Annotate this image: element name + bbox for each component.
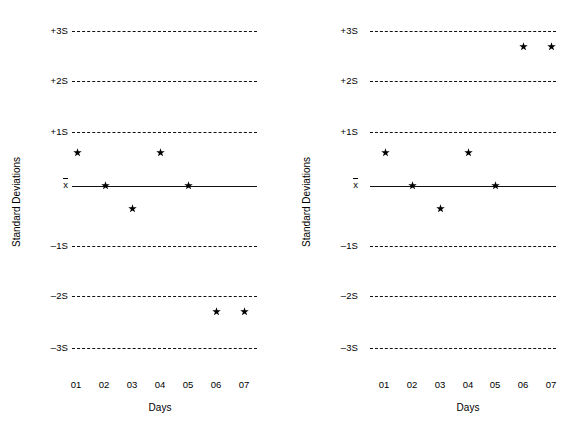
data-point-left-03[interactable] xyxy=(128,204,137,213)
x-tick-label-left-05: 05 xyxy=(183,380,194,390)
y-tick-label-plus2s-right: +2S xyxy=(312,76,358,86)
x-axis-title-left: Days xyxy=(149,402,172,413)
y-tick-label-minus1s-left: –1S xyxy=(22,241,68,251)
gridline-minus1s-left xyxy=(72,246,257,247)
y-tick-label-plus1s-right: +1S xyxy=(312,127,358,137)
x-bar-glyph-left: x xyxy=(63,180,68,190)
y-axis-title-left: Standard Deviations xyxy=(11,157,22,247)
x-tick-label-right-05: 05 xyxy=(490,380,501,390)
y-tick-label-minus1s-right: –1S xyxy=(312,241,358,251)
gridline-minus3s-left xyxy=(72,348,257,349)
data-point-right-05[interactable] xyxy=(491,181,500,190)
y-tick-label-minus3s-right: –3S xyxy=(312,343,358,353)
x-axis-title-right: Days xyxy=(457,402,480,413)
data-point-right-01[interactable] xyxy=(381,148,390,157)
x-tick-label-left-04: 04 xyxy=(155,380,166,390)
x-tick-label-left-03: 03 xyxy=(127,380,138,390)
data-point-right-03[interactable] xyxy=(436,204,445,213)
plot-area-left: Standard Deviations +3S +2S +1S x –1S –2… xyxy=(0,0,290,430)
x-tick-label-right-04: 04 xyxy=(463,380,474,390)
data-point-left-05[interactable] xyxy=(184,181,193,190)
control-chart-panel-right: Standard Deviations +3S +2S +1S x –1S –2… xyxy=(290,0,580,430)
gridline-minus2s-right xyxy=(370,296,556,297)
x-tick-label-right-02: 02 xyxy=(407,380,418,390)
y-tick-label-mean-right: x xyxy=(312,180,358,190)
data-point-left-04[interactable] xyxy=(156,148,165,157)
x-tick-label-right-01: 01 xyxy=(379,380,390,390)
y-tick-label-plus3s-right: +3S xyxy=(312,26,358,36)
y-tick-label-minus2s-right: –2S xyxy=(312,291,358,301)
gridline-minus1s-right xyxy=(370,246,556,247)
data-point-right-07[interactable] xyxy=(547,42,556,51)
x-tick-label-right-06: 06 xyxy=(518,380,529,390)
y-tick-label-mean-left: x xyxy=(22,180,68,190)
gridline-minus2s-left xyxy=(72,296,257,297)
y-tick-label-plus1s-left: +1S xyxy=(22,127,68,137)
x-bar-glyph-right: x xyxy=(353,180,358,190)
gridline-plus2s-right xyxy=(370,81,556,82)
data-point-left-01[interactable] xyxy=(73,148,82,157)
data-point-right-02[interactable] xyxy=(408,181,417,190)
gridline-plus1s-left xyxy=(72,132,257,133)
x-tick-label-right-07: 07 xyxy=(546,380,557,390)
y-tick-label-plus3s-left: +3S xyxy=(22,26,68,36)
x-tick-label-right-03: 03 xyxy=(435,380,446,390)
gridline-plus1s-right xyxy=(370,132,556,133)
x-tick-label-left-01: 01 xyxy=(71,380,82,390)
gridline-plus3s-right xyxy=(370,31,556,32)
gridline-plus2s-left xyxy=(72,81,257,82)
mean-line-right xyxy=(370,186,556,187)
data-point-left-02[interactable] xyxy=(101,181,110,190)
plot-area-right: Standard Deviations +3S +2S +1S x –1S –2… xyxy=(290,0,580,430)
y-axis-title-right: Standard Deviations xyxy=(301,157,312,247)
data-point-right-04[interactable] xyxy=(464,148,473,157)
y-tick-label-minus2s-left: –2S xyxy=(22,291,68,301)
control-chart-panel-left: Standard Deviations +3S +2S +1S x –1S –2… xyxy=(0,0,290,430)
gridline-plus3s-left xyxy=(72,31,257,32)
y-tick-label-minus3s-left: –3S xyxy=(22,343,68,353)
x-tick-label-left-06: 06 xyxy=(211,380,222,390)
y-tick-label-plus2s-left: +2S xyxy=(22,76,68,86)
data-point-right-06[interactable] xyxy=(519,42,528,51)
gridline-minus3s-right xyxy=(370,348,556,349)
x-tick-label-left-02: 02 xyxy=(99,380,110,390)
x-tick-label-left-07: 07 xyxy=(239,380,250,390)
data-point-left-06[interactable] xyxy=(212,307,221,316)
data-point-left-07[interactable] xyxy=(240,307,249,316)
